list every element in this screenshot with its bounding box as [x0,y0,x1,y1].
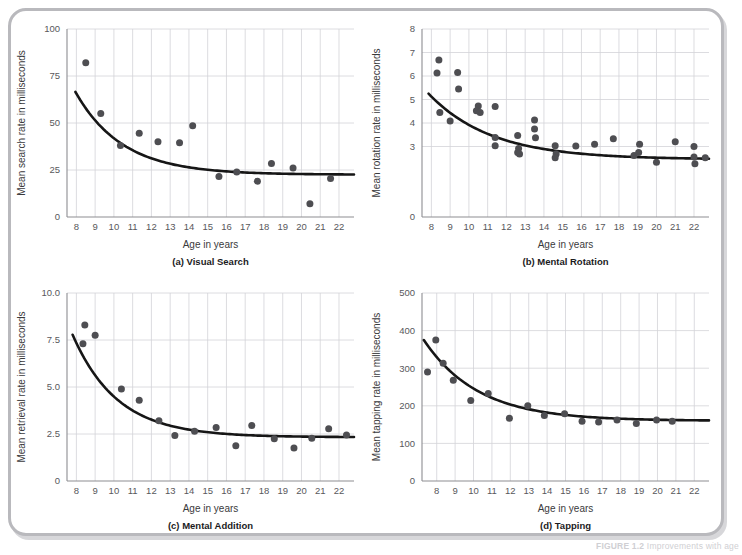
data-point [477,109,484,116]
data-point [155,417,162,424]
data-point [92,332,99,339]
y-tick-label: 0 [55,211,60,222]
x-axis-title: Age in years [538,239,594,250]
figure-caption-label: FIGURE 1.2 [596,541,644,551]
y-tick-label: 0 [55,475,60,486]
data-point [450,377,457,384]
x-tick-label: 9 [92,221,97,232]
data-point [82,59,89,66]
data-point [614,417,621,424]
data-point [232,442,239,449]
data-point [492,142,499,149]
data-point [653,417,660,424]
y-tick-label: 25 [49,164,60,175]
x-tick-label: 13 [165,485,176,496]
data-point [118,385,125,392]
y-axis-title: Mean tapping rate in milliseconds [371,313,382,461]
data-point [268,160,275,167]
data-point [467,397,474,404]
fitted-curve [429,94,709,159]
data-point [595,418,602,425]
x-tick-label: 22 [689,485,700,496]
fitted-curve [75,92,354,174]
x-tick-label: 15 [202,221,213,232]
data-point [653,159,660,166]
data-point [325,425,332,432]
x-tick-label: 8 [74,221,79,232]
x-tick-label: 17 [597,485,608,496]
x-axis-title: Age in years [183,503,239,514]
x-tick-label: 13 [165,221,176,232]
y-tick-label: 3 [410,141,415,152]
x-tick-label: 21 [671,485,682,496]
data-point [636,141,643,148]
data-point [691,160,698,167]
panel-mental-rotation: 03456788910111213141516171819202122Mean … [366,11,721,275]
x-tick-label: 20 [651,221,662,232]
data-point [532,134,539,141]
x-axis-title: Age in years [538,503,594,514]
x-tick-label: 12 [501,221,512,232]
y-tick-label: 0 [410,211,415,222]
fitted-curve [424,340,709,420]
data-point [514,132,521,139]
x-tick-label: 19 [277,221,288,232]
x-tick-label: 8 [434,485,439,496]
data-point [610,135,617,142]
data-point [306,200,313,207]
y-tick-label: 500 [399,287,415,298]
y-axis-title: Mean search rate in milliseconds [16,50,27,196]
x-tick-label: 14 [539,221,550,232]
panel-grid: 02550751008910111213141516171819202122Me… [11,11,721,533]
panel-title: (a) Visual Search [172,256,249,267]
x-tick-label: 9 [92,485,97,496]
data-point [432,337,439,344]
x-tick-label: 11 [128,485,138,496]
data-point [215,173,222,180]
data-point [117,142,124,149]
data-point [690,154,697,161]
data-point [440,360,447,367]
data-point [702,154,709,161]
data-point [669,418,676,425]
x-tick-label: 16 [221,485,232,496]
x-tick-label: 15 [560,485,571,496]
data-point [572,143,579,150]
data-point [81,321,88,328]
x-tick-label: 17 [240,485,251,496]
chart-visual-search: 02550751008910111213141516171819202122Me… [11,11,366,275]
data-point [435,57,442,64]
chart-mental-rotation: 03456788910111213141516171819202122Mean … [366,11,721,275]
figure-caption: FIGURE 1.2 Improvements with age [596,541,742,551]
x-tick-label: 18 [615,485,626,496]
y-tick-label: 100 [44,23,60,34]
x-tick-label: 18 [259,221,270,232]
y-tick-label: 2.5 [47,428,60,439]
x-tick-label: 21 [670,221,681,232]
panel-title: (c) Mental Addition [168,520,253,531]
y-tick-label: 0 [410,475,415,486]
x-tick-label: 10 [464,221,475,232]
data-point [506,415,513,422]
data-point [213,424,220,431]
figure-caption-text: Improvements with age [644,541,739,551]
y-tick-label: 10.0 [42,287,61,298]
y-tick-label: 300 [399,363,415,374]
data-point [524,402,531,409]
x-tick-label: 19 [277,485,288,496]
x-tick-label: 22 [689,221,700,232]
x-tick-label: 11 [483,221,493,232]
data-point [233,168,240,175]
data-point [552,142,559,149]
data-point [189,122,196,129]
data-point [327,175,334,182]
fitted-curve [73,335,354,437]
data-point [290,165,297,172]
x-tick-label: 18 [259,485,270,496]
x-axis-title: Age in years [183,239,239,250]
y-tick-label: 4 [410,117,415,128]
data-point [308,435,315,442]
data-point [492,134,499,141]
data-point [447,118,454,125]
data-point [552,154,559,161]
